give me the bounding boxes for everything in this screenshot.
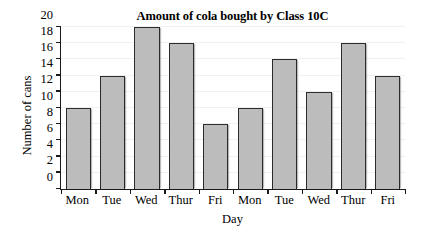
bar: [169, 43, 194, 189]
y-tick-label: 8: [47, 105, 53, 118]
bar-slot: [336, 27, 370, 189]
bar-slot: [130, 27, 164, 189]
x-tick-label: Wed: [302, 193, 337, 208]
bar: [100, 76, 125, 189]
x-tick-label: Mon: [60, 193, 95, 208]
x-tick-mark: [405, 189, 406, 194]
y-tick-label: 18: [41, 24, 54, 37]
y-tick-label: 14: [41, 57, 54, 70]
y-axis-label: Number of cans: [20, 46, 35, 186]
bar: [341, 43, 366, 189]
y-tick-label: 6: [47, 122, 53, 135]
x-tick-label: Fri: [371, 193, 406, 208]
bar-slot: [233, 27, 267, 189]
y-tick-label: 0: [47, 170, 53, 183]
bar: [375, 76, 400, 189]
x-tick-label: Fri: [198, 193, 233, 208]
bar: [66, 108, 91, 189]
bar-slot: [371, 27, 405, 189]
y-tick-label: 4: [47, 138, 53, 151]
x-tick-label: Wed: [129, 193, 164, 208]
bar: [203, 124, 228, 189]
bar-slot: [267, 27, 301, 189]
bar: [238, 108, 263, 189]
x-tick-label: Thur: [336, 193, 371, 208]
x-tick-label: Tue: [95, 193, 130, 208]
bar-slot: [95, 27, 129, 189]
bar-slot: [61, 27, 95, 189]
x-tick-label: Thur: [164, 193, 199, 208]
y-tick-label: 20: [41, 8, 54, 21]
plot-area: 02468101214161820: [60, 27, 405, 190]
bar-series: [61, 27, 405, 189]
x-tick-label: Tue: [267, 193, 302, 208]
bar: [272, 59, 297, 189]
bar-slot: [199, 27, 233, 189]
y-tick-label: 2: [47, 154, 53, 167]
y-tick-label: 12: [41, 73, 54, 86]
y-tick-label: 10: [41, 89, 54, 102]
chart-title: Amount of cola bought by Class 10C: [60, 9, 405, 24]
y-tick-label: 16: [41, 41, 54, 54]
bar: [306, 92, 331, 189]
bar-slot: [164, 27, 198, 189]
x-tick-label: Mon: [233, 193, 268, 208]
x-axis-tick-labels: MonTueWedThurFriMonTueWedThurFri: [60, 193, 405, 208]
bar: [134, 27, 159, 189]
bar-chart-figure: Amount of cola bought by Class 10C Numbe…: [0, 0, 425, 236]
x-axis-label: Day: [60, 212, 405, 227]
bar-slot: [302, 27, 336, 189]
